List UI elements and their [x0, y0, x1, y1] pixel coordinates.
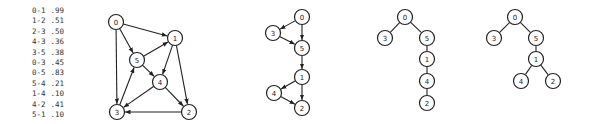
node-label: 1 [534, 56, 538, 64]
node-4: 4 [267, 86, 282, 101]
graph-canvas: 015432035142035142035142 [0, 0, 595, 124]
node-3: 3 [266, 26, 281, 41]
edge-1-2 [541, 65, 549, 75]
node-1: 1 [168, 31, 183, 46]
graph-tree-path: 035142 [378, 10, 435, 111]
edge-0-5 [120, 29, 134, 53]
node-label: 4 [519, 78, 524, 86]
graph-tree-branching: 035142 [487, 10, 561, 89]
node-label: 5 [135, 57, 139, 65]
edge-0-3 [500, 22, 510, 32]
edge-0-3 [391, 22, 400, 32]
node-label: 3 [271, 30, 275, 38]
node-2: 2 [420, 96, 435, 111]
edge-3-5 [280, 36, 295, 44]
node-label: 3 [383, 35, 387, 43]
node-label: 3 [115, 109, 119, 117]
graph-shortest-paths-tree-directed: 035142 [266, 10, 310, 116]
node-label: 4 [272, 90, 277, 98]
node-label: 2 [551, 78, 555, 86]
node-5: 5 [420, 31, 435, 46]
node-0: 0 [295, 10, 310, 25]
edge-0-1 [123, 24, 167, 36]
node-0: 0 [508, 10, 523, 25]
edge-4-3 [124, 86, 154, 107]
node-label: 4 [158, 79, 163, 87]
node-label: 1 [173, 35, 177, 43]
node-1: 1 [529, 52, 544, 67]
node-3: 3 [110, 105, 125, 120]
edge-4-2 [165, 87, 183, 106]
node-label: 0 [513, 14, 517, 22]
node-2: 2 [295, 101, 310, 116]
edge-1-2 [176, 45, 187, 104]
node-label: 5 [300, 45, 304, 53]
edge-1-4 [163, 45, 173, 74]
node-label: 0 [403, 14, 407, 22]
node-5: 5 [130, 53, 145, 68]
node-5: 5 [295, 41, 310, 56]
node-label: 1 [425, 56, 429, 64]
node-3: 3 [378, 31, 393, 46]
node-label: 0 [300, 14, 304, 22]
node-0: 0 [398, 10, 413, 25]
edge-5-1 [143, 42, 168, 56]
node-2: 2 [546, 74, 561, 89]
edge-0-5 [410, 22, 421, 32]
node-label: 3 [492, 35, 496, 43]
node-label: 5 [534, 35, 538, 43]
node-label: 2 [187, 109, 191, 117]
node-1: 1 [420, 52, 435, 67]
edge-4-2 [281, 97, 295, 105]
graph-weighted-digraph: 015432 [109, 15, 197, 120]
edge-3-5 [120, 67, 134, 105]
edge-1-4 [281, 81, 296, 89]
node-label: 4 [425, 78, 430, 86]
node-0: 0 [109, 15, 124, 30]
node-label: 0 [114, 19, 118, 27]
edge-1-4 [526, 65, 532, 74]
node-4: 4 [153, 75, 168, 90]
node-4: 4 [514, 74, 529, 89]
edge-0-5 [520, 22, 530, 32]
node-5: 5 [529, 31, 544, 46]
edge-5-4 [142, 65, 154, 76]
node-4: 4 [420, 74, 435, 89]
node-3: 3 [487, 31, 502, 46]
node-label: 2 [300, 105, 304, 113]
node-label: 1 [300, 74, 304, 82]
edge-0-3 [280, 21, 295, 30]
node-label: 5 [425, 35, 429, 43]
node-label: 2 [425, 100, 429, 108]
node-1: 1 [295, 70, 310, 85]
edge-0-3 [116, 29, 117, 104]
node-2: 2 [182, 105, 197, 120]
